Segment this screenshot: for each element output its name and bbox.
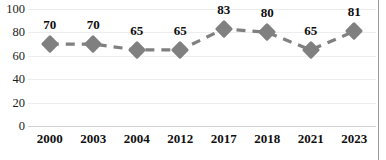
data-point-label: 80: [261, 5, 274, 21]
chart-container: 020406080100 200020032004201220172018202…: [0, 0, 386, 160]
y-axis-labels: 020406080100: [0, 9, 25, 126]
y-axis-tick-label: 100: [0, 2, 25, 17]
y-axis-tick-label: 40: [0, 72, 25, 87]
gridline-20: [28, 103, 376, 104]
plot-area: [28, 9, 376, 126]
data-point-label: 70: [87, 17, 100, 33]
x-axis-tick-label: 2004: [124, 131, 150, 147]
data-point-label: 65: [304, 23, 317, 39]
y-axis-tick-label: 80: [0, 25, 25, 40]
x-axis-tick-label: 2003: [80, 131, 106, 147]
data-point-label: 83: [217, 2, 230, 18]
x-axis-tick-label: 2021: [298, 131, 324, 147]
data-point-label: 70: [43, 17, 56, 33]
gridline-80: [28, 32, 376, 33]
data-point-label: 81: [348, 4, 361, 20]
gridline-0: [28, 126, 376, 127]
y-axis-tick-label: 0: [0, 119, 25, 134]
gridline-40: [28, 79, 376, 80]
chart-right-border: [378, 0, 379, 160]
data-point-label: 65: [174, 23, 187, 39]
gridline-60: [28, 56, 376, 57]
x-axis-tick-label: 2017: [211, 131, 237, 147]
x-axis-tick-label: 2000: [37, 131, 63, 147]
data-point-label: 65: [130, 23, 143, 39]
clipped-chart-title: [46, 0, 166, 2]
y-axis-tick-label: 20: [0, 95, 25, 110]
x-axis-tick-label: 2018: [254, 131, 280, 147]
y-axis-tick-label: 60: [0, 48, 25, 63]
x-axis-tick-label: 2012: [167, 131, 193, 147]
x-axis-tick-label: 2023: [341, 131, 367, 147]
gridline-100: [28, 9, 376, 10]
